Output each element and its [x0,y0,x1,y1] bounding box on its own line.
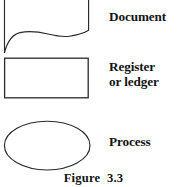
rectangle-shape-icon [5,58,89,98]
document-shape-icon [5,0,89,53]
figure-shapes [0,0,187,187]
ellipse-shape-icon [4,121,90,170]
symbol-label-register-or-ledger: Register or ledger [109,60,159,89]
symbol-label-document: Document [109,10,166,25]
figure-container: Document Register or ledger Process Figu… [0,0,187,187]
figure-caption: Figure 3.3 [0,171,187,186]
symbol-label-process: Process [109,135,151,150]
